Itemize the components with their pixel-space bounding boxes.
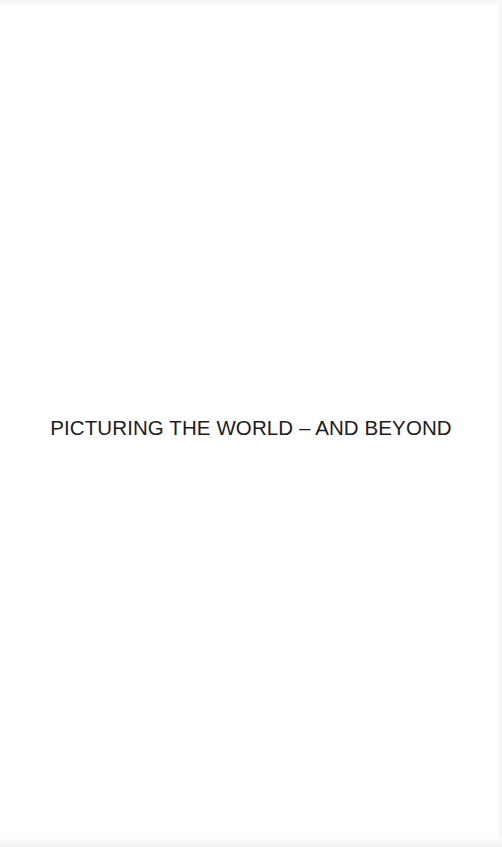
document-page: PICTURING THE WORLD – AND BEYOND bbox=[0, 0, 502, 847]
scan-edge-bottom bbox=[0, 837, 502, 847]
scan-edge-top bbox=[0, 0, 502, 6]
page-title: PICTURING THE WORLD – AND BEYOND bbox=[0, 416, 502, 440]
